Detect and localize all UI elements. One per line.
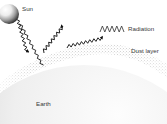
sun-sphere — [0, 4, 19, 24]
earth-label: Earth — [36, 100, 51, 107]
zigzag-wave-icon — [100, 26, 124, 32]
sun-label: Sun — [22, 5, 33, 12]
dust-layer-label: Dust layer — [131, 47, 159, 54]
diagram-svg — [0, 0, 167, 124]
radiation-legend-label: Radiation — [128, 25, 154, 32]
outgoing-ray-1 — [42, 23, 64, 55]
incoming-ray-1 — [13, 18, 32, 53]
diagram-canvas: Sun Radiation Dust layer Earth — [0, 0, 167, 124]
